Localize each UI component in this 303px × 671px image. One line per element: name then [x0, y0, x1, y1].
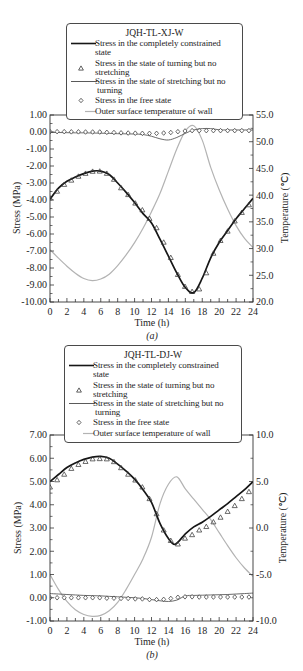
diamond-marker	[84, 595, 88, 600]
diamond-marker	[126, 131, 130, 136]
diamond-marker	[155, 597, 159, 602]
legend-a: JQH-TL-XJ-W Stress in the completely con…	[66, 23, 243, 120]
x-tick-label: 8	[115, 625, 120, 636]
y-tick-label: 6.00	[30, 453, 48, 464]
plot-frame	[50, 435, 253, 621]
diamond-marker	[84, 130, 88, 135]
x-tick-label: 24	[248, 625, 258, 636]
triangle-marker	[239, 496, 244, 500]
y-axis-left: 1.000.00-1.00-2.00-3.00-4.00-5.00-6.00-7…	[21, 109, 54, 307]
y2-tick-label: 45.0	[256, 163, 274, 174]
chart-a: 0246810121416182022241.000.00-1.00-2.00-…	[11, 109, 291, 341]
y2-tick-label: 0.0	[256, 522, 269, 533]
legend-item-constrained: Stress in the completely constrainedstat…	[67, 39, 242, 59]
figure: 0246810121416182022241.000.00-1.00-2.00-…	[0, 0, 303, 671]
y2-tick-label: 40.0	[256, 190, 274, 201]
x-axis: 024681012141618202224	[48, 298, 259, 317]
x-tick-label: 14	[163, 306, 173, 317]
diamond-marker	[219, 128, 223, 133]
diamond-marker	[233, 595, 237, 600]
legend-item-temperature: Outer surface temperature of wall	[67, 107, 242, 127]
caption: (b)	[146, 649, 158, 661]
x-tick-label: 10	[130, 625, 140, 636]
diamond-marker	[147, 597, 151, 602]
diamond-marker	[147, 131, 151, 136]
diamond-marker	[226, 128, 230, 133]
diamond-marker	[140, 597, 144, 602]
series-group	[48, 125, 254, 293]
legend-label: state	[93, 369, 109, 379]
x-tick-label: 0	[48, 306, 53, 317]
x-tick-label: 20	[214, 306, 224, 317]
plot-area-b: 0246810121416182022247.006.005.004.003.0…	[26, 429, 277, 636]
y-tick-label: -6.00	[26, 228, 47, 239]
diamond-marker	[69, 130, 73, 135]
x-tick-label: 12	[147, 625, 157, 636]
y-axis-label: Stress (MPa)	[12, 502, 24, 554]
legend-label: Stress in the completely constrained	[93, 360, 219, 370]
x-tick-label: 0	[48, 625, 53, 636]
x-tick-label: 24	[248, 306, 258, 317]
diamond-marker	[69, 595, 73, 600]
diamond-marker	[204, 128, 208, 133]
diamond-marker	[211, 595, 215, 600]
x-tick-label: 22	[231, 625, 241, 636]
y-tick-label: -4.00	[26, 194, 47, 205]
y-tick-label: -1.00	[26, 615, 47, 626]
plot-frame	[50, 115, 253, 302]
diamond-marker	[76, 595, 80, 600]
diamond-marker	[190, 128, 194, 133]
triangle-marker	[218, 515, 223, 519]
chart-b: 0246810121416182022247.006.005.004.003.0…	[12, 429, 289, 661]
diamond-marker	[169, 596, 173, 601]
diamond-marker	[233, 128, 237, 133]
y2-tick-label: 25.0	[256, 270, 274, 281]
legend-title: JQH-TL-XJ-W	[67, 28, 242, 38]
x-tick-label: 8	[115, 306, 120, 317]
legend-label: Stress in the free state	[93, 417, 169, 427]
y-tick-label: 3.00	[30, 522, 48, 533]
diamond-marker	[247, 128, 251, 133]
triangle-marker	[197, 528, 202, 532]
legend-item-stretching: Stress in the state of stretching but no…	[65, 399, 241, 419]
y2-tick-label: 55.0	[256, 109, 274, 120]
x-tick-label: 6	[98, 306, 103, 317]
x-tick-label: 10	[130, 306, 140, 317]
y-tick-label: -3.00	[26, 177, 47, 188]
y-tick-label: 1.00	[30, 569, 48, 580]
triangle-marker	[204, 524, 209, 528]
diamond-marker	[126, 596, 130, 601]
y2-tick-label: 10.0	[256, 429, 274, 440]
x-tick-label: 12	[147, 306, 157, 317]
y-tick-label: 2.00	[30, 546, 48, 557]
x-tick-label: 4	[81, 625, 86, 636]
triangle-marker	[62, 472, 67, 476]
x-tick-label: 18	[197, 306, 207, 317]
caption: (a)	[146, 330, 158, 342]
y2-tick-label: 30.0	[256, 243, 274, 254]
y2-axis-label: Temperature (℃)	[279, 173, 291, 244]
y2-tick-label: 35.0	[256, 216, 274, 227]
y-tick-label: -10.00	[21, 296, 47, 307]
x-axis-label: Time (h)	[135, 317, 170, 329]
y-tick-label: 1.00	[30, 109, 48, 120]
y2-tick-label: 5.0	[256, 476, 269, 487]
diamond-marker	[105, 130, 109, 135]
y-tick-label: 5.00	[30, 476, 48, 487]
series-stress-in-the-completely-constrained-state	[50, 171, 253, 293]
y2-tick-label: -10.0	[256, 615, 277, 626]
triangle-marker	[190, 532, 195, 536]
x-axis-label: Time (h)	[135, 636, 170, 648]
legend-title: JQH-TL-DJ-W	[65, 350, 241, 360]
y-tick-label: 0.00	[30, 126, 48, 137]
x-tick-label: 4	[81, 306, 86, 317]
legend-label: turning	[95, 85, 122, 95]
diamond-marker	[91, 130, 95, 135]
legend-label: state	[95, 47, 111, 57]
y2-axis-label: Temperature (℃)	[277, 493, 289, 564]
diamond-marker	[219, 595, 223, 600]
diamond-marker	[247, 595, 251, 600]
y-tick-label: 7.00	[30, 429, 48, 440]
y-tick-label: -9.00	[26, 279, 47, 290]
y2-tick-label: 50.0	[256, 136, 274, 147]
